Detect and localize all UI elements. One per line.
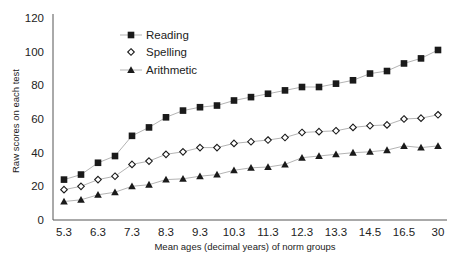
open-diamond-marker xyxy=(299,129,306,136)
open-diamond-marker xyxy=(214,144,221,151)
open-diamond-marker xyxy=(401,116,408,123)
filled-square-marker xyxy=(333,80,340,87)
filled-square-marker xyxy=(129,133,136,140)
filled-triangle-marker xyxy=(400,142,408,149)
filled-square-marker xyxy=(435,47,442,54)
filled-square-marker xyxy=(265,90,272,97)
open-diamond-marker xyxy=(384,122,391,129)
series-arithmetic xyxy=(60,142,442,204)
open-diamond-marker xyxy=(163,151,170,158)
open-diamond-marker xyxy=(95,176,102,183)
legend-item-arithmetic: Arithmetic xyxy=(120,64,197,76)
y-axis: 020406080100120 xyxy=(25,12,53,226)
series-reading xyxy=(61,47,442,183)
filled-square-marker xyxy=(282,87,289,94)
x-tick-label: 13.3 xyxy=(325,226,347,238)
legend: ReadingSpellingArithmetic xyxy=(120,29,197,76)
open-diamond-marker xyxy=(112,173,119,180)
open-diamond-marker xyxy=(333,127,340,134)
legend-label: Reading xyxy=(146,29,189,41)
open-diamond-marker xyxy=(180,149,187,156)
x-axis: 5.36.37.38.39.310.311.312.313.314.516.53… xyxy=(53,220,447,238)
open-diamond-marker xyxy=(61,186,68,193)
x-tick-label: 7.3 xyxy=(124,226,140,238)
y-tick-label: 20 xyxy=(31,180,44,192)
filled-triangle-marker xyxy=(111,188,119,195)
legend-item-spelling: Spelling xyxy=(128,46,187,58)
filled-triangle-marker xyxy=(434,142,442,149)
open-diamond-marker xyxy=(282,134,289,141)
y-tick-label: 0 xyxy=(38,214,44,226)
series-line xyxy=(64,50,438,180)
x-tick-label: 10.3 xyxy=(223,226,245,238)
y-tick-label: 80 xyxy=(31,79,44,91)
x-tick-label: 8.3 xyxy=(158,226,174,238)
open-diamond-legend-icon xyxy=(128,49,135,56)
filled-square-marker xyxy=(418,55,425,62)
x-tick-label: 5.3 xyxy=(56,226,72,238)
open-diamond-marker xyxy=(265,137,272,144)
filled-triangle-marker xyxy=(281,161,289,168)
x-tick-label: 6.3 xyxy=(90,226,106,238)
open-diamond-marker xyxy=(435,111,442,118)
legend-label: Spelling xyxy=(146,46,187,58)
legend-label: Arithmetic xyxy=(146,64,197,76)
filled-square-marker xyxy=(61,176,68,183)
filled-square-marker xyxy=(146,124,153,131)
filled-square-marker xyxy=(248,94,255,101)
filled-square-legend-icon xyxy=(128,32,135,39)
filled-square-marker xyxy=(180,107,187,114)
filled-square-marker xyxy=(401,60,408,67)
filled-square-marker xyxy=(95,159,102,166)
filled-square-marker xyxy=(299,84,306,91)
x-tick-label: 9.3 xyxy=(192,226,208,238)
open-diamond-marker xyxy=(78,183,85,190)
x-tick-label: 30 xyxy=(432,226,445,238)
filled-square-marker xyxy=(214,102,221,109)
open-diamond-marker xyxy=(146,158,153,165)
open-diamond-marker xyxy=(231,140,238,147)
filled-square-marker xyxy=(197,104,204,111)
filled-square-marker xyxy=(367,70,374,77)
y-tick-label: 40 xyxy=(31,147,44,159)
filled-square-marker xyxy=(316,84,323,91)
series-line xyxy=(64,146,438,202)
y-axis-title: Raw scores on each test xyxy=(10,69,21,173)
legend-item-reading: Reading xyxy=(120,29,189,41)
x-axis-title: Mean ages (decimal years) of norm groups xyxy=(154,241,335,252)
line-chart: 020406080100120 5.36.37.38.39.310.311.31… xyxy=(0,0,453,267)
y-tick-label: 60 xyxy=(31,113,44,125)
open-diamond-marker xyxy=(418,115,425,122)
x-tick-label: 16.5 xyxy=(393,226,415,238)
filled-square-marker xyxy=(163,114,170,121)
series-layer xyxy=(60,47,442,205)
filled-square-marker xyxy=(350,77,357,84)
x-tick-label: 14.5 xyxy=(359,226,381,238)
series-line xyxy=(64,115,438,190)
x-tick-label: 11.3 xyxy=(257,226,279,238)
open-diamond-marker xyxy=(367,122,374,129)
open-diamond-marker xyxy=(248,138,255,145)
y-tick-label: 120 xyxy=(25,12,44,24)
open-diamond-marker xyxy=(197,144,204,151)
filled-square-marker xyxy=(78,171,85,178)
open-diamond-marker xyxy=(350,124,357,131)
x-tick-label: 12.3 xyxy=(291,226,313,238)
open-diamond-marker xyxy=(316,128,323,135)
filled-square-marker xyxy=(384,68,391,75)
filled-square-marker xyxy=(112,153,119,160)
y-tick-label: 100 xyxy=(25,46,44,58)
open-diamond-marker xyxy=(129,161,136,168)
filled-square-marker xyxy=(231,97,238,104)
